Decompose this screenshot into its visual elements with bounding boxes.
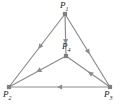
vertex-label-p2: P2 [3,90,12,101]
vertex-label-p3-subscript: 3 [110,95,113,101]
vertex-label-p3: P3 [104,90,113,101]
vertex-label-p4-subscript: 4 [68,47,71,53]
vertex-node-p4 [64,54,68,58]
edge-p3-to-p4 [66,56,110,87]
vertex-label-p1-subscript: 1 [66,6,69,12]
vertex-label-p1: P1 [60,1,69,12]
directed-graph-svg [0,0,121,105]
vertex-label-p4: P4 [62,42,71,53]
edges-layer [9,14,110,87]
arrowhead-p3-to-p4 [88,72,94,77]
vertex-node-p1 [63,12,67,16]
arrowhead-p3-to-p2 [57,84,62,89]
edge-p1-to-p2 [9,14,65,87]
vertex-label-p2-subscript: 2 [9,95,12,101]
figure-container: P1 P2 P3 P4 [0,0,121,105]
